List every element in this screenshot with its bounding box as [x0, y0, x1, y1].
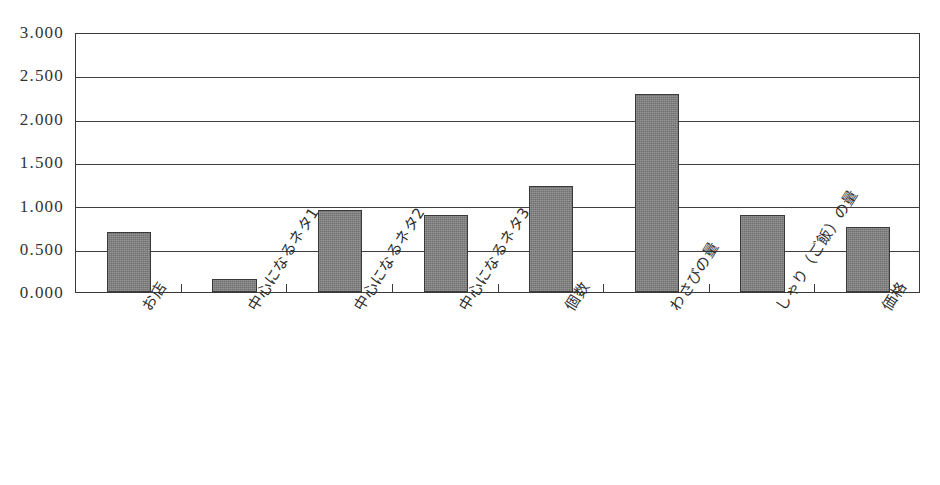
y-axis-labels: 3.000 2.500 2.000 1.500 1.000 0.500 0.00… — [0, 0, 70, 485]
bar — [424, 215, 468, 292]
y-axis-tick-label: 3.000 — [20, 23, 64, 43]
y-axis-tick-label: 0.000 — [20, 283, 64, 303]
bar — [635, 94, 679, 292]
x-axis-labels: お店 中心になるネタ1 中心になるネタ2 中心になるネタ3 個数 わさびの量 し… — [75, 293, 920, 485]
bar — [107, 232, 151, 292]
y-axis-tick-label: 2.500 — [20, 66, 64, 86]
bar — [529, 186, 573, 292]
y-axis-tick-label: 2.000 — [20, 110, 64, 130]
y-axis-tick-label: 1.000 — [20, 197, 64, 217]
bar — [846, 227, 890, 292]
y-axis-tick-label: 0.500 — [20, 240, 64, 260]
bar — [318, 210, 362, 292]
bar-chart: 3.000 2.500 2.000 1.500 1.000 0.500 0.00… — [0, 0, 940, 485]
bar — [740, 215, 784, 292]
y-axis-tick-label: 1.500 — [20, 153, 64, 173]
